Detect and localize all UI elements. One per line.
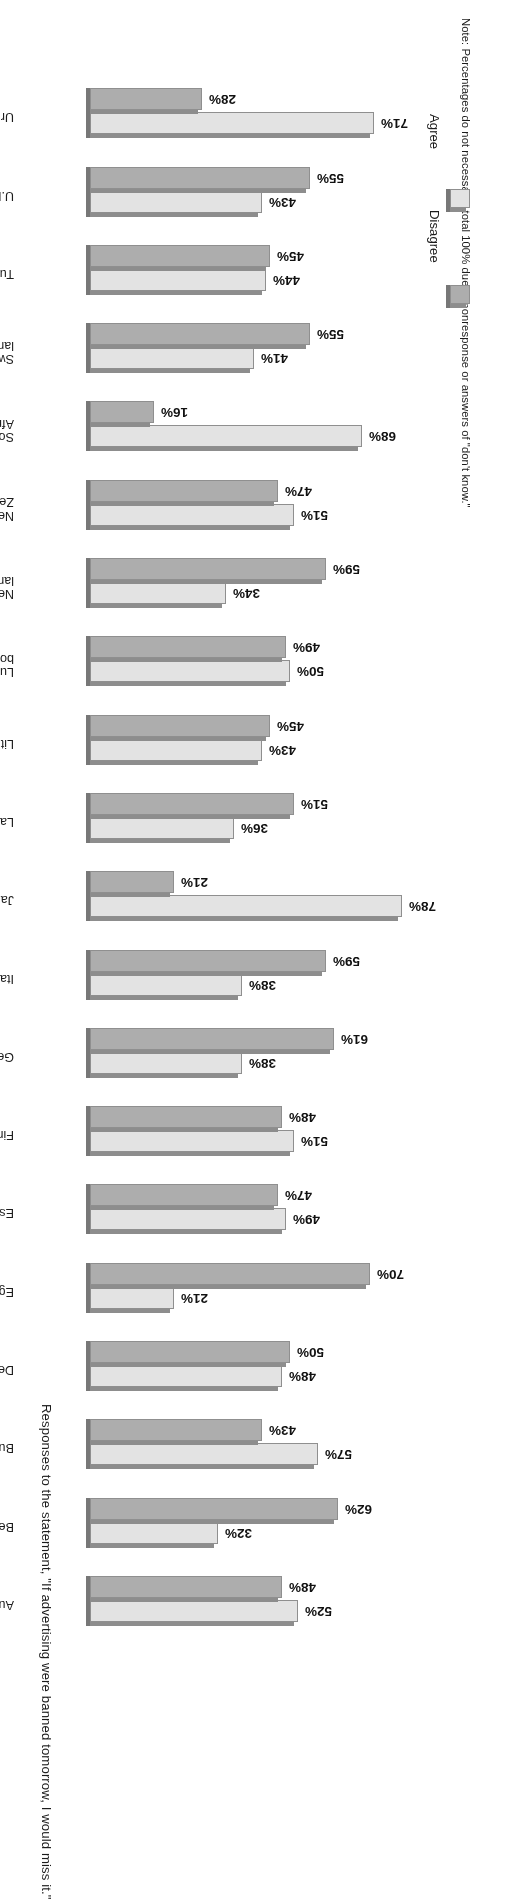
- bar-value-label-disagree: 28%: [209, 88, 236, 110]
- chart-footnote: Note: Percentages do not necessarily tot…: [458, 18, 472, 658]
- bar-value-label-agree: 34%: [233, 582, 260, 604]
- category-label: Luxem-bourg: [0, 652, 14, 679]
- chart-category-row: 34%59%Nether-lands: [90, 546, 440, 612]
- chart-category-row: 68%16%SouthAfrica: [90, 390, 440, 456]
- category-label: Uruguay: [0, 110, 14, 123]
- bar-value-label-disagree: 55%: [317, 323, 344, 345]
- chart-category-row: 44%45%Turkey: [90, 233, 440, 299]
- bar-disagree: [90, 1341, 290, 1363]
- bar-value-label-agree: 51%: [301, 504, 328, 526]
- bar-value-label-agree: 36%: [241, 817, 268, 839]
- bar-agree: [90, 1130, 294, 1152]
- bar-value-label-agree: 21%: [181, 1287, 208, 1309]
- category-label: SouthAfrica: [0, 417, 14, 444]
- bar-agree: [90, 1365, 282, 1387]
- category-label: Australia: [0, 1598, 14, 1611]
- chart-category-row: 48%50%Denmark: [90, 1329, 440, 1395]
- category-label: NewZealand: [0, 495, 14, 522]
- bar-agree: [90, 504, 294, 526]
- plot-area: 52%48%Australia32%62%Belgium57%43%Bulgar…: [90, 64, 440, 1630]
- category-label: Turkey: [0, 267, 14, 280]
- chart-category-row: 71%28%Uruguay: [90, 76, 440, 142]
- bar-disagree: [90, 1028, 334, 1050]
- chart-category-row: 41%55%Switzer-land: [90, 311, 440, 377]
- bar-disagree: [90, 480, 278, 502]
- bar-disagree: [90, 1185, 278, 1207]
- chart-category-row: 43%55%U.K.: [90, 155, 440, 221]
- bar-disagree: [90, 167, 310, 189]
- bar-value-label-disagree: 50%: [297, 1341, 324, 1363]
- bar-agree: [90, 1600, 298, 1622]
- bar-value-label-disagree: 47%: [285, 480, 312, 502]
- bar-agree: [90, 817, 234, 839]
- category-label: Denmark: [0, 1363, 14, 1376]
- chart-category-row: 49%47%Estonia: [90, 1173, 440, 1239]
- category-label: Finland: [0, 1128, 14, 1141]
- bar-disagree: [90, 636, 286, 658]
- category-label: Bulgaria: [0, 1441, 14, 1454]
- bar-disagree: [90, 402, 154, 424]
- bar-value-label-agree: 71%: [381, 112, 408, 134]
- bar-agree: [90, 739, 262, 761]
- bar-value-label-disagree: 45%: [277, 245, 304, 267]
- chart-category-row: 52%48%Australia: [90, 1564, 440, 1630]
- bar-disagree: [90, 1106, 282, 1128]
- category-label: Lithuania: [0, 736, 14, 749]
- bar-value-label-disagree: 48%: [289, 1106, 316, 1128]
- bar-value-label-agree: 50%: [297, 660, 324, 682]
- bar-disagree: [90, 793, 294, 815]
- chart-category-row: 32%62%Belgium: [90, 1486, 440, 1552]
- bar-value-label-agree: 52%: [305, 1600, 332, 1622]
- chart-category-row: 38%61%Germany: [90, 1016, 440, 1082]
- bar-disagree: [90, 871, 174, 893]
- bar-value-label-agree: 57%: [325, 1443, 352, 1465]
- bar-disagree: [90, 950, 326, 972]
- bar-agree: [90, 191, 262, 213]
- bar-disagree: [90, 558, 326, 580]
- bar-disagree: [90, 1576, 282, 1598]
- bar-value-label-disagree: 16%: [161, 402, 188, 424]
- bar-value-label-disagree: 51%: [301, 793, 328, 815]
- chart-title: Responses to the statement, "If advertis…: [38, 1404, 55, 1903]
- category-label: Italy: [0, 971, 14, 984]
- bar-agree: [90, 974, 242, 996]
- bar-agree: [90, 582, 226, 604]
- bar-value-label-disagree: 61%: [341, 1028, 368, 1050]
- bar-value-label-agree: 41%: [261, 347, 288, 369]
- bar-value-label-agree: 43%: [269, 191, 296, 213]
- bar-value-label-disagree: 59%: [333, 950, 360, 972]
- bar-value-label-disagree: 43%: [269, 1419, 296, 1441]
- chart-category-row: 38%59%Italy: [90, 938, 440, 1004]
- chart-category-row: 51%47%NewZealand: [90, 468, 440, 534]
- bar-disagree: [90, 245, 270, 267]
- bar-value-label-agree: 51%: [301, 1130, 328, 1152]
- category-label: U.K.: [0, 188, 14, 201]
- bar-value-label-agree: 48%: [289, 1365, 316, 1387]
- bar-value-label-disagree: 47%: [285, 1185, 312, 1207]
- bar-value-label-agree: 38%: [249, 974, 276, 996]
- bar-disagree: [90, 715, 270, 737]
- bar-agree: [90, 269, 266, 291]
- legend-swatch-agree: [450, 189, 470, 208]
- bar-disagree: [90, 1498, 338, 1520]
- category-label: Egypt: [0, 1284, 14, 1297]
- bar-agree: [90, 1287, 174, 1309]
- bar-value-label-agree: 78%: [409, 895, 436, 917]
- bar-value-label-agree: 49%: [293, 1209, 320, 1231]
- category-label: Latvia: [0, 815, 14, 828]
- bar-agree: [90, 895, 402, 917]
- bar-disagree: [90, 1263, 370, 1285]
- chart-category-row: 43%45%Lithuania: [90, 703, 440, 769]
- bar-value-label-disagree: 49%: [293, 636, 320, 658]
- bar-value-label-agree: 32%: [225, 1522, 252, 1544]
- category-label: Nether-lands: [0, 573, 14, 600]
- legend-swatch-disagree: [450, 285, 470, 304]
- bar-value-label-agree: 43%: [269, 739, 296, 761]
- category-label: Germany: [0, 1050, 14, 1063]
- chart-category-row: 78%21%Japan: [90, 859, 440, 925]
- chart-category-row: 51%48%Finland: [90, 1094, 440, 1160]
- bar-agree: [90, 1443, 318, 1465]
- bar-agree: [90, 426, 362, 448]
